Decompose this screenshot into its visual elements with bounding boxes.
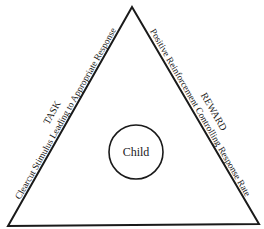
triangle-diagram: Child TASK Clearcut Stimulus Leading to …	[0, 0, 264, 229]
child-label: Child	[123, 145, 150, 159]
task-subtitle: Clearcut Stimulus Leading to Appropriate…	[13, 26, 118, 201]
reward-subtitle: Positive Reinforcement Controlling Respo…	[148, 27, 252, 198]
